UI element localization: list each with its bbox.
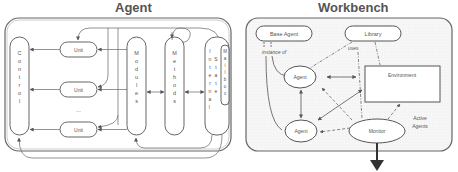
- svg-text:Unit: Unit: [74, 127, 84, 133]
- active-agents-label-2: Agents: [412, 123, 428, 129]
- workbench-panel: Base Agent Library instance of uses Agen…: [246, 18, 452, 171]
- svg-text:Unit: Unit: [74, 87, 84, 93]
- unit-2: Unit: [60, 82, 97, 97]
- svg-text:Environment: Environment: [388, 72, 417, 78]
- uses-label: uses: [348, 45, 359, 51]
- methods-block: Methods: [165, 37, 184, 135]
- svg-text:Monitor: Monitor: [369, 128, 386, 134]
- environment-node: Environment: [365, 66, 440, 102]
- mailbox-block: Mailbox: [221, 45, 229, 105]
- instance-of-label: instance of: [262, 49, 287, 55]
- unit-1: Unit: [60, 42, 97, 57]
- library-node: Library: [345, 26, 401, 41]
- agent-node-top: Agent: [284, 66, 316, 88]
- svg-text:Library: Library: [365, 31, 382, 37]
- architecture-diagram: Control Unit Unit ... Unit: [0, 0, 458, 172]
- unit-3: Unit: [60, 122, 97, 137]
- control-block: Control: [10, 37, 29, 135]
- modules-block: Modules: [127, 37, 146, 135]
- agent-node-bottom: Agent: [285, 120, 317, 142]
- base-agent-node: Base Agent: [256, 26, 312, 41]
- svg-text:Base Agent: Base Agent: [270, 31, 299, 37]
- agent-panel: Control Unit Unit ... Unit: [5, 18, 231, 158]
- svg-text:Unit: Unit: [74, 47, 84, 53]
- units-ellipsis: ...: [76, 107, 81, 113]
- svg-text:Agent: Agent: [293, 74, 307, 80]
- svg-text:Agent: Agent: [294, 128, 308, 134]
- monitor-node: Monitor: [349, 119, 405, 143]
- active-agents-label-1: Active: [413, 115, 427, 121]
